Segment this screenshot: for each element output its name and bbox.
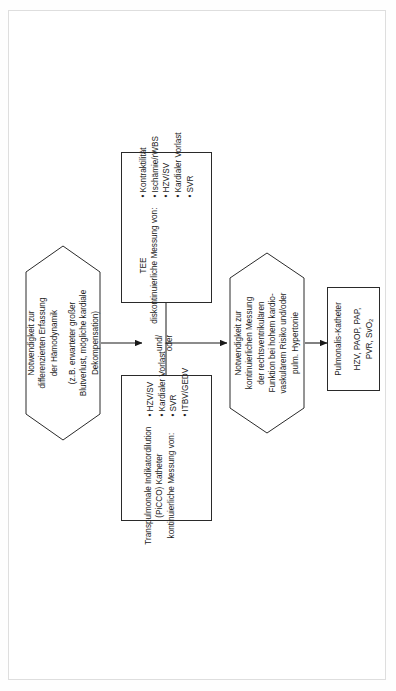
node-picco-heading: Transpulmonale Indikatordilution (PiCCO)… (142, 427, 176, 545)
tee-bullet-1: • Kontraktilität (137, 132, 149, 197)
pac-values-line-1: HZV, PAOP, PAP, (352, 302, 363, 376)
picco-bullet-3-label: SVR (169, 395, 178, 412)
picco-title: Transpulmonale Indikatordilution (142, 427, 153, 545)
line-1: Notwendigkeit zur (26, 290, 37, 397)
picco-title2: (PiCCO) Katheter (154, 427, 165, 545)
junction-label-und-oder: und/ oder (148, 322, 182, 364)
line-2: kontinuierlichen Messung (244, 292, 255, 393)
pac-values-subscript: 2 (368, 319, 374, 322)
node-tee-text: TEE diskontinuierliche Messung von: • Ko… (137, 132, 195, 323)
picco-bullet-1-label: HZV/SV (145, 382, 154, 412)
pac-spacer (344, 302, 352, 376)
junction-line-2: oder (165, 335, 175, 351)
node-indication-hemodynamics-text: Notwendigkeit zur differenzierten Erfass… (26, 290, 101, 397)
tee-bullet-1-label: Kontraktilität (138, 147, 147, 192)
tee-bullet-5: • SVR (184, 132, 196, 197)
pac-values-line-2-text: PVR, SvO (364, 322, 373, 359)
junction-label-text: und/ oder (155, 335, 176, 351)
page-canvas: Notwendigkeit zur differenzierten Erfass… (0, 0, 396, 691)
picco-subtitle: kontinuierliche Messung von: (165, 427, 176, 545)
tee-bullet-2-label: Ischämie/rWBS (150, 136, 159, 192)
line-3: der Hämodynamik (48, 290, 59, 397)
tee-bullet-4: • Kardialer Vorlast (172, 132, 184, 197)
node-indication-hemodynamics[interactable]: Notwendigkeit zur differenzierten Erfass… (25, 245, 101, 441)
line-5: Blutverlust, mögliche kardiale (78, 290, 89, 397)
node-tee-bullet-list: • Kontraktilität • Ischämie/rWBS • HZV/S… (137, 132, 195, 197)
tee-bullet-3: • HZV/SV (161, 132, 173, 197)
line-5: vaskulärem Risiko und/oder (278, 292, 289, 393)
node-indication-rv-function[interactable]: Notwendigkeit zur kontinuierlichen Messu… (229, 252, 305, 434)
tee-subtitle: diskontinuierliche Messung von: (149, 207, 160, 323)
pac-values-line-2: PVR, SvO2 (363, 302, 374, 376)
junction-line-1: und/ (155, 335, 165, 351)
tee-bullet-4-label: Kardialer Vorlast (173, 132, 182, 192)
tee-bullet-5-label: SVR (185, 175, 194, 192)
tee-bullet-3-label: HZV/SV (162, 162, 171, 192)
node-tee[interactable]: TEE diskontinuierliche Messung von: • Ko… (121, 152, 212, 303)
line-4: (z.B. erwarteter großer (67, 290, 78, 397)
node-indication-rv-function-text: Notwendigkeit zur kontinuierlichen Messu… (233, 292, 301, 393)
picco-bullet-4-label: ITBV/GEDV (180, 368, 189, 412)
node-pulmonalis-katheter-text: Pulmonalis-Katheter HZV, PAOP, PAP, PVR,… (333, 302, 375, 376)
pac-title: Pulmonalis-Katheter (333, 302, 344, 376)
flowchart-canvas: Notwendigkeit zur differenzierten Erfass… (0, 0, 396, 691)
line-3: der rechtsventrikulären (256, 292, 267, 393)
line-1: Notwendigkeit zur (233, 292, 244, 393)
line-6: pulm. Hypertonie (290, 292, 301, 393)
tee-title: TEE (137, 207, 148, 323)
node-pulmonalis-katheter[interactable]: Pulmonalis-Katheter HZV, PAOP, PAP, PVR,… (327, 287, 380, 391)
tee-bullet-2: • Ischämie/rWBS (149, 132, 161, 197)
line-4: Funktion bei hohem kardio- (267, 292, 278, 393)
node-picco-text: Transpulmonale Indikatordilution (PiCCO)… (142, 351, 191, 544)
line-6: Dekompensation) (89, 290, 100, 397)
line-2: differenzierten Erfassung (37, 290, 48, 397)
node-picco[interactable]: Transpulmonale Indikatordilution (PiCCO)… (121, 375, 212, 521)
node-tee-heading: TEE diskontinuierliche Messung von: (137, 207, 160, 323)
line-spacer (60, 290, 67, 397)
